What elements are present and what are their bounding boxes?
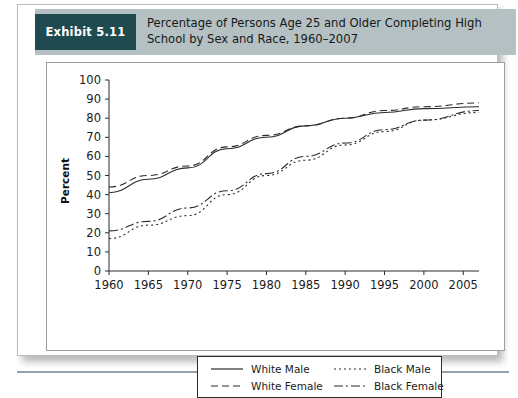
y-axis-ticks bbox=[105, 80, 109, 271]
x-tick-label: 1965 bbox=[134, 278, 163, 292]
x-tick-label: 1990 bbox=[331, 278, 360, 292]
y-tick-label: 40 bbox=[86, 188, 101, 202]
y-axis-title: Percent bbox=[59, 158, 71, 204]
legend-line-swatch bbox=[333, 363, 367, 375]
x-tick-label: 1975 bbox=[212, 278, 241, 292]
x-tick-label: 1985 bbox=[291, 278, 320, 292]
legend-line-swatch bbox=[210, 363, 244, 375]
x-axis-ticks bbox=[109, 271, 463, 275]
y-tick-label: 100 bbox=[79, 73, 101, 87]
x-tick-label: 1960 bbox=[94, 278, 123, 292]
y-tick-label: 70 bbox=[86, 130, 101, 144]
exhibit-title: Percentage of Persons Age 25 and Older C… bbox=[147, 16, 507, 47]
x-tick-label: 2000 bbox=[409, 278, 438, 292]
legend-line-swatch bbox=[210, 380, 244, 392]
exhibit-number-badge: Exhibit 5.11 bbox=[35, 14, 136, 50]
legend-line-swatch bbox=[333, 380, 367, 392]
legend-item[interactable]: White Female bbox=[210, 377, 323, 395]
x-axis-tick-labels: 1960196519701975198019851990199520002005 bbox=[94, 278, 478, 292]
chart-series-paths bbox=[109, 103, 479, 239]
legend-item[interactable]: White Male bbox=[210, 360, 310, 378]
y-tick-label: 20 bbox=[86, 226, 101, 240]
legend-item-label: White Male bbox=[251, 363, 310, 375]
line-chart: 0102030405060708090100 19601965197019751… bbox=[47, 63, 504, 350]
legend-item-label: White Female bbox=[251, 380, 323, 392]
exhibit-number-label: Exhibit 5.11 bbox=[46, 25, 126, 39]
legend-item-label: Black Male bbox=[374, 363, 431, 375]
series-line-white-female bbox=[109, 103, 479, 187]
exhibit-page-sheet: Exhibit 5.11 Percentage of Persons Age 2… bbox=[17, 4, 498, 356]
y-tick-label: 60 bbox=[86, 149, 101, 163]
y-tick-label: 80 bbox=[86, 111, 101, 125]
exhibit-header-band: Exhibit 5.11 Percentage of Persons Age 2… bbox=[35, 9, 516, 55]
chart-legend: White MaleWhite FemaleBlack MaleBlack Fe… bbox=[197, 356, 442, 398]
x-tick-label: 1970 bbox=[173, 278, 202, 292]
chart-panel: 0102030405060708090100 19601965197019751… bbox=[46, 62, 505, 351]
legend-item-label: Black Female bbox=[374, 380, 444, 392]
legend-item[interactable]: Black Male bbox=[333, 360, 431, 378]
x-tick-label: 2005 bbox=[449, 278, 478, 292]
legend-item[interactable]: Black Female bbox=[333, 377, 444, 395]
y-tick-label: 50 bbox=[86, 169, 101, 183]
series-line-black-female bbox=[109, 111, 479, 231]
y-tick-label: 0 bbox=[94, 264, 101, 278]
x-tick-label: 1995 bbox=[370, 278, 399, 292]
y-tick-label: 90 bbox=[86, 92, 101, 106]
x-tick-label: 1980 bbox=[252, 278, 281, 292]
y-tick-label: 30 bbox=[86, 207, 101, 221]
y-tick-label: 10 bbox=[86, 245, 101, 259]
y-axis-tick-labels: 0102030405060708090100 bbox=[79, 73, 101, 278]
